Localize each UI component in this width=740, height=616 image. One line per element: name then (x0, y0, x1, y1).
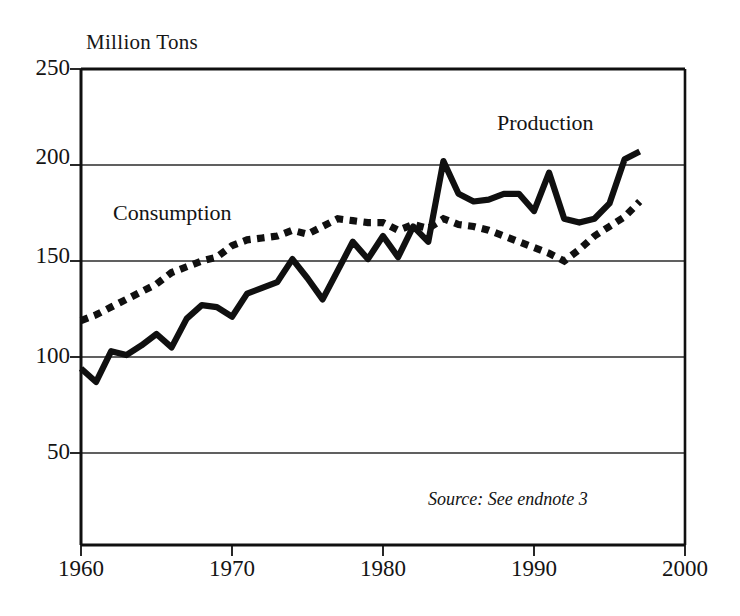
data-series-layer (81, 152, 640, 382)
series-line-production (81, 152, 640, 382)
chart-figure: Million Tons 250 200 150 100 50 1960 197… (0, 0, 740, 616)
axis-ticks (70, 69, 685, 556)
axis-lines (81, 69, 685, 545)
gridlines (81, 165, 685, 453)
plot-area (0, 0, 740, 616)
